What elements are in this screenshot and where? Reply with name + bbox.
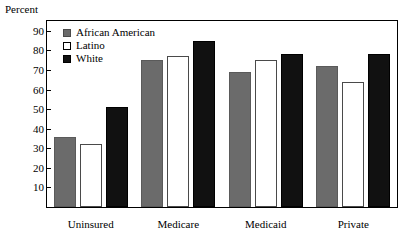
y-axis-tick-mark: [46, 129, 51, 130]
y-axis-tick-mark: [46, 168, 51, 169]
y-axis-tick-label: 60: [22, 84, 44, 95]
bar: [229, 72, 251, 207]
y-axis-tick-label: 10: [22, 182, 44, 193]
bar: [141, 60, 163, 207]
bar: [167, 56, 189, 207]
y-axis-tick-label: 80: [22, 45, 44, 56]
legend-item: African American: [63, 26, 155, 39]
bar-chart: Percent 102030405060708090 African Ameri…: [0, 0, 405, 250]
bar: [193, 41, 215, 207]
y-axis-tick-label: 70: [22, 64, 44, 75]
x-axis-category-label: Medicaid: [245, 218, 287, 230]
bar: [342, 82, 364, 207]
y-axis-tick-mark: [46, 31, 51, 32]
legend-swatch-icon: [63, 29, 71, 37]
legend-label: African American: [76, 26, 155, 39]
legend-swatch-icon: [63, 55, 71, 63]
bar: [80, 144, 102, 207]
x-axis-category-label: Private: [338, 218, 369, 230]
legend-swatch-icon: [63, 42, 71, 50]
y-axis-tick-mark: [46, 187, 51, 188]
x-axis-category-label: Uninsured: [68, 218, 114, 230]
x-axis-category-label: Medicare: [157, 218, 199, 230]
y-axis-tick-labels: 102030405060708090: [18, 0, 44, 250]
bar: [368, 54, 390, 207]
legend-label: Latino: [76, 39, 105, 52]
y-axis-tick-mark: [46, 70, 51, 71]
y-axis-tick-mark: [46, 50, 51, 51]
y-axis-tick-label: 30: [22, 143, 44, 154]
legend-item: Latino: [63, 39, 155, 52]
bar: [106, 107, 128, 207]
y-axis-tick-mark: [46, 148, 51, 149]
bar: [316, 66, 338, 207]
y-axis-tick-mark: [46, 109, 51, 110]
y-axis-tick-mark: [46, 90, 51, 91]
y-axis-tick-label: 90: [22, 25, 44, 36]
y-axis-tick-label: 20: [22, 162, 44, 173]
bar: [54, 137, 76, 207]
legend-label: White: [76, 52, 103, 65]
chart-legend: African AmericanLatinoWhite: [63, 26, 155, 65]
legend-item: White: [63, 52, 155, 65]
bar: [255, 60, 277, 207]
bar: [281, 54, 303, 207]
y-axis-tick-label: 40: [22, 123, 44, 134]
y-axis-tick-label: 50: [22, 104, 44, 115]
